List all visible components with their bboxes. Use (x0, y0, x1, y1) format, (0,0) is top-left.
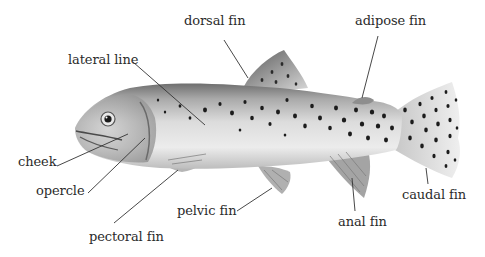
label-adipose-fin: adipose fin (355, 14, 426, 27)
label-pectoral-fin: pectoral fin (89, 230, 164, 243)
label-cheek: cheek (18, 155, 56, 168)
label-opercle: opercle (36, 184, 85, 197)
label-pelvic-fin: pelvic fin (177, 204, 236, 217)
label-anal-fin: anal fin (338, 215, 387, 228)
label-dorsal-fin: dorsal fin (184, 14, 245, 27)
trout-anatomy-diagram: dorsal fin adipose fin lateral line chee… (0, 0, 485, 257)
trout-illustration (0, 0, 485, 257)
label-lateral-line: lateral line (68, 53, 138, 66)
label-caudal-fin: caudal fin (402, 188, 466, 201)
